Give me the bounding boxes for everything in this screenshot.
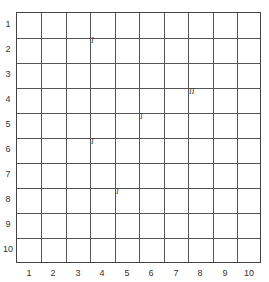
grid [16,12,261,263]
grid-hline [17,88,260,89]
col-label: 4 [90,268,114,278]
row-label: 6 [2,144,14,154]
col-label: 5 [115,268,139,278]
row-label: 1 [2,19,14,29]
col-label: 2 [41,268,65,278]
tally-mark: II [189,87,194,96]
row-label: 5 [2,119,14,129]
col-label: 9 [213,268,237,278]
col-label: 6 [139,268,163,278]
tally-mark: I [91,36,94,45]
row-label: 2 [2,44,14,54]
row-label: 8 [2,194,14,204]
row-label: 3 [2,69,14,79]
grid-hline [17,63,260,64]
tally-mark: I [140,112,143,121]
grid-hline [17,38,260,39]
grid-hline [17,113,260,114]
grid-hline [17,163,260,164]
row-label: 7 [2,169,14,179]
row-label: 4 [2,94,14,104]
grid-hline [17,138,260,139]
grid-hline [17,188,260,189]
col-label: 3 [66,268,90,278]
tally-mark: I [116,187,119,196]
grid-hline [17,238,260,239]
col-label: 10 [237,268,261,278]
col-label: 1 [17,268,41,278]
col-label: 8 [188,268,212,278]
tally-mark: I [91,137,94,146]
row-label: 10 [2,244,14,254]
col-label: 7 [164,268,188,278]
row-label: 9 [2,219,14,229]
grid-hline [17,213,260,214]
